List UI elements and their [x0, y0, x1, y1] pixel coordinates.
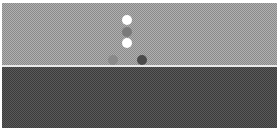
dot-white-top [122, 15, 132, 25]
dot-white-lower [122, 38, 132, 48]
dot-dark-right [137, 55, 147, 65]
bottom-band [2, 67, 277, 128]
dot-gray-left [108, 55, 118, 65]
scene-frame [2, 3, 277, 128]
dot-gray-middle [122, 27, 132, 37]
